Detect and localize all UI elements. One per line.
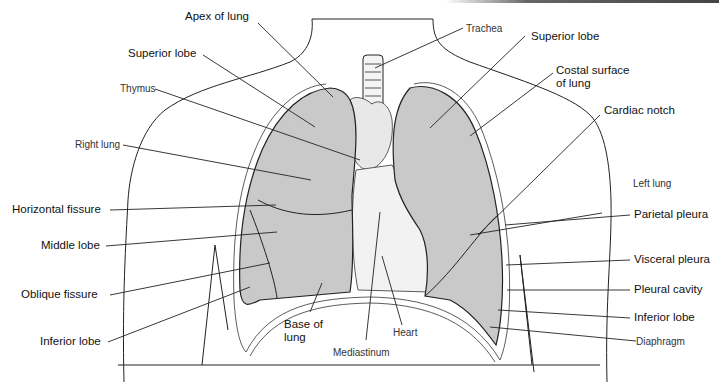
label-diaphragm: Diaphragm xyxy=(636,336,685,347)
label-right-lung: Right lung xyxy=(75,139,120,150)
label-superior-lobe-left: Superior lobe xyxy=(531,30,599,43)
label-base-of-lung-line2: lung xyxy=(284,331,306,344)
label-oblique-fissure: Oblique fissure xyxy=(21,288,98,301)
label-trachea: Trachea xyxy=(466,23,502,34)
label-superior-lobe-right: Superior lobe xyxy=(128,47,196,60)
label-pleural-cavity: Pleural cavity xyxy=(634,283,702,296)
label-middle-lobe: Middle lobe xyxy=(41,239,100,252)
label-costal-surface-line1: Costal surface xyxy=(556,64,630,77)
label-horizontal-fissure: Horizontal fissure xyxy=(12,203,101,216)
right-lung xyxy=(240,88,356,304)
label-parietal-pleura: Parietal pleura xyxy=(634,208,708,221)
label-mediastinum: Mediastinum xyxy=(333,347,390,358)
label-inferior-lobe-left: Inferior lobe xyxy=(634,311,695,324)
label-thymus: Thymus xyxy=(120,83,156,94)
label-costal-surface-line2: of lung xyxy=(556,77,591,90)
label-inferior-lobe-right: Inferior lobe xyxy=(40,335,101,348)
label-left-lung: Left lung xyxy=(633,178,671,189)
label-apex-of-lung: Apex of lung xyxy=(185,10,249,23)
label-heart: Heart xyxy=(393,327,417,338)
diagram-artwork xyxy=(0,0,719,382)
label-visceral-pleura: Visceral pleura xyxy=(634,253,710,266)
label-cardiac-notch: Cardiac notch xyxy=(604,104,675,117)
lung-anatomy-diagram: Apex of lung Superior lobe Thymus Right … xyxy=(0,0,719,382)
label-base-of-lung-line1: Base of xyxy=(284,318,323,331)
